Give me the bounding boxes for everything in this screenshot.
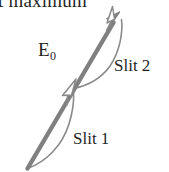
- slit-1-phasor-stem: [67, 95, 68, 105]
- phasor-diagram-figure: t maximum E0 Slit 2 Slit 1: [0, 0, 169, 172]
- slit-1-label: Slit 1: [73, 130, 109, 147]
- slit-2-label: Slit 2: [114, 57, 150, 74]
- slit-2-phasor-arrowhead: [107, 7, 115, 24]
- caption-fragment: t maximum: [0, 0, 87, 10]
- resultant-amplitude-symbol: E: [38, 39, 50, 60]
- resultant-amplitude-subscript: 0: [50, 49, 56, 63]
- resultant-amplitude-label: E0: [38, 40, 56, 62]
